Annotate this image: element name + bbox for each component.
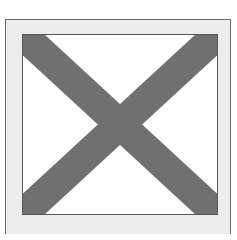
placeholder-image-area [22,34,218,215]
x-cross-icon [23,35,217,214]
